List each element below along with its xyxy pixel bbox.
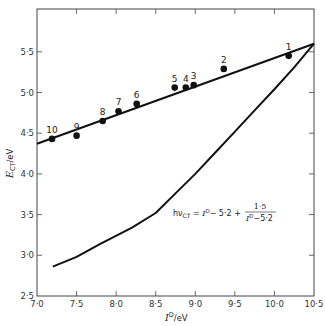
data-point: [99, 118, 106, 125]
data-point: [49, 136, 56, 143]
y-tick-label: 4·0: [20, 169, 34, 179]
data-point: [171, 84, 178, 91]
x-axis-ticks: 7·07·58·08·59·09·510·010·5: [30, 9, 323, 309]
svg-text:1·5: 1·5: [254, 202, 267, 211]
svg-text:ID−5·2: ID−5·2: [245, 213, 273, 223]
y-tick-label: 5·0: [20, 88, 34, 98]
y-tick-label: 4·5: [20, 128, 34, 138]
x-tick-label: 7·5: [70, 299, 84, 309]
y-axis-title: ECT/eV: [4, 148, 17, 179]
data-point: [182, 84, 189, 91]
point-label: 5: [172, 74, 178, 84]
svg-text:hνCT = ID− 5·2 +: hνCT = ID− 5·2 +: [173, 208, 241, 219]
data-point: [285, 53, 292, 60]
point-label: 7: [116, 97, 122, 107]
data-point: [73, 132, 80, 139]
point-label: 10: [46, 125, 58, 135]
data-point: [133, 101, 140, 108]
point-label: 9: [74, 122, 80, 132]
x-tick-label: 9·5: [228, 299, 242, 309]
point-label: 8: [100, 107, 106, 117]
y-tick-label: 2·5: [20, 291, 34, 301]
data-point: [220, 66, 227, 73]
x-tick-label: 8·0: [109, 299, 123, 309]
plot-frame: [37, 9, 314, 296]
y-tick-label: 5·5: [20, 47, 34, 57]
data-point: [115, 108, 122, 115]
chart: 7·07·58·08·59·09·510·010·5 2·53·03·54·04…: [0, 0, 325, 326]
point-label: 3: [191, 71, 197, 81]
y-tick-label: 3·0: [20, 250, 34, 260]
data-point: [190, 82, 197, 89]
x-axis-title: ID/eV: [164, 311, 188, 323]
point-label: 4: [183, 74, 189, 84]
x-tick-label: 9·0: [189, 299, 203, 309]
y-tick-label: 3·5: [20, 210, 34, 220]
point-label: 6: [134, 90, 140, 100]
point-label: 1: [286, 42, 292, 52]
x-tick-label: 10·5: [305, 299, 324, 309]
point-label: 2: [221, 55, 227, 65]
x-tick-label: 10·0: [265, 299, 284, 309]
formula-annotation: hνCT = ID− 5·2 + 1·5 ID−5·2: [173, 202, 276, 223]
x-tick-label: 8·5: [149, 299, 163, 309]
